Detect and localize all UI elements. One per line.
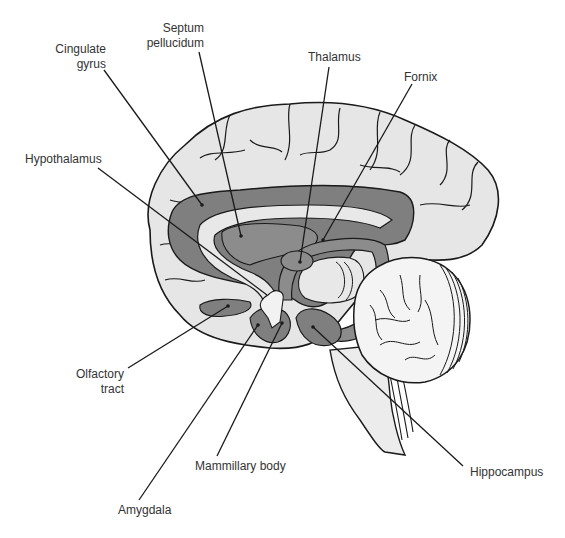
brain-diagram	[0, 0, 565, 538]
label-hippocampus: Hippocampus	[470, 465, 543, 480]
label-fornix: Fornix	[404, 70, 437, 85]
label-septum-pellucidum: Septum pellucidum	[146, 21, 204, 51]
label-olfactory-tract: Olfactory tract	[74, 367, 124, 397]
cerebellum	[354, 258, 470, 383]
label-hypothalamus: Hypothalamus	[25, 152, 102, 167]
thalamus-nucleus	[281, 251, 313, 271]
label-thalamus: Thalamus	[308, 50, 361, 65]
label-amygdala: Amygdala	[118, 503, 171, 518]
label-mammillary-body: Mammillary body	[195, 459, 286, 474]
label-cingulate-gyrus: Cingulate gyrus	[54, 42, 106, 72]
